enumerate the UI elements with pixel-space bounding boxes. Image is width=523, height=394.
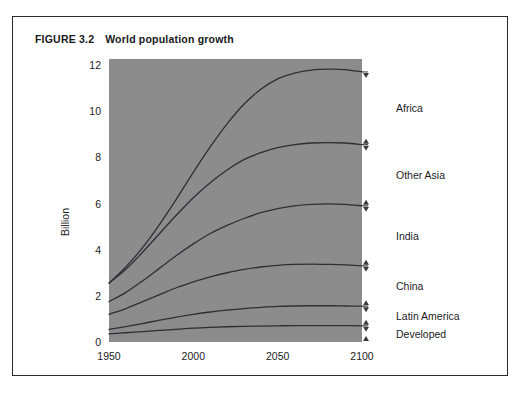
series-label-developed: Developed — [396, 328, 446, 340]
population-growth-chart: 024681012 1950200020502100 AfricaOther A… — [13, 17, 509, 377]
band-arrow-up — [363, 320, 369, 325]
x-tick-2000: 2000 — [182, 350, 206, 362]
chart-plot: 024681012 1950200020502100 AfricaOther A… — [13, 17, 509, 377]
band-arrow-down — [363, 327, 369, 332]
y-tick-6: 6 — [95, 198, 101, 210]
series-label-group: AfricaOther AsiaIndiaChinaLatin AmericaD… — [396, 102, 460, 340]
series-label-latin-america: Latin America — [396, 310, 460, 322]
y-axis-ticks: 024681012 — [89, 59, 101, 348]
band-arrow-down — [363, 146, 369, 151]
band-arrow-down — [363, 73, 369, 78]
band-arrow-down — [363, 267, 369, 272]
band-arrow-down — [363, 307, 369, 312]
x-tick-1950: 1950 — [97, 350, 121, 362]
x-tick-2050: 2050 — [266, 350, 290, 362]
y-tick-8: 8 — [95, 151, 101, 163]
y-tick-12: 12 — [89, 59, 101, 71]
x-axis-ticks: 1950200020502100 — [97, 350, 374, 362]
y-tick-4: 4 — [95, 244, 101, 256]
band-arrow-up — [363, 300, 369, 305]
y-tick-2: 2 — [95, 290, 101, 302]
y-axis-title: Billion — [59, 208, 71, 236]
figure-card: FIGURE 3.2World population growth 024681… — [12, 16, 508, 376]
series-label-other-asia: Other Asia — [396, 169, 445, 181]
x-tick-2100: 2100 — [350, 350, 374, 362]
series-label-india: India — [396, 230, 419, 242]
band-arrow-up — [363, 336, 369, 341]
series-label-china: China — [396, 280, 424, 292]
band-arrow-up — [363, 139, 369, 144]
y-tick-0: 0 — [95, 336, 101, 348]
series-label-africa: Africa — [396, 102, 423, 114]
band-arrow-down — [363, 207, 369, 212]
band-arrow-up — [363, 260, 369, 265]
y-tick-10: 10 — [89, 105, 101, 117]
band-arrow-up — [363, 200, 369, 205]
band-marker-group — [362, 72, 369, 341]
